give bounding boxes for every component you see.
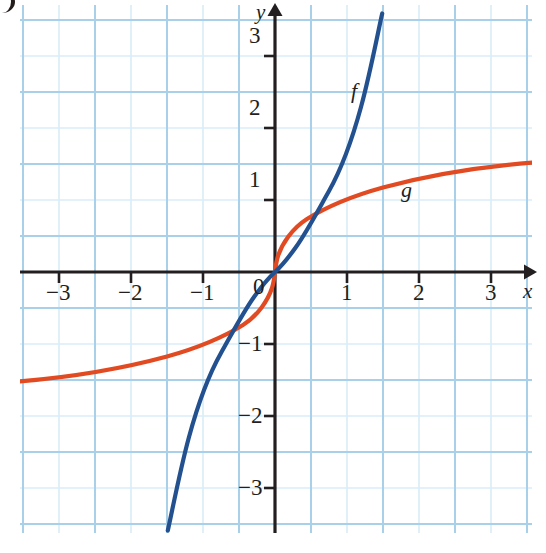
- y-tick-label-neg2: −2: [238, 404, 262, 427]
- curve-label-g: g: [401, 179, 412, 201]
- y-tick-label-pos3: 3: [249, 24, 261, 47]
- y-tick-label-neg1: −1: [238, 332, 262, 355]
- y-tick-label-pos1: 1: [249, 168, 261, 191]
- coordinate-plane: [0, 0, 546, 553]
- y-axis-label: y: [256, 2, 265, 23]
- curve-label-f: f: [351, 80, 357, 102]
- x-tick-label-neg3: −3: [46, 281, 70, 304]
- x-tick-label-pos3: 3: [485, 281, 497, 304]
- x-tick-label-pos1: 1: [341, 281, 353, 304]
- x-tick-label-pos2: 2: [413, 281, 425, 304]
- x-tick-label-neg2: −2: [118, 281, 142, 304]
- y-tick-label-pos2: 2: [249, 96, 261, 119]
- origin-label: 0: [253, 275, 265, 298]
- graph-figure: −3 −2 −1 1 2 3 3 2 1 −1 −2 −3 0 x y f g: [0, 0, 546, 553]
- x-tick-label-neg1: −1: [190, 281, 214, 304]
- x-axis-label: x: [523, 281, 532, 302]
- y-tick-label-neg3: −3: [238, 476, 262, 499]
